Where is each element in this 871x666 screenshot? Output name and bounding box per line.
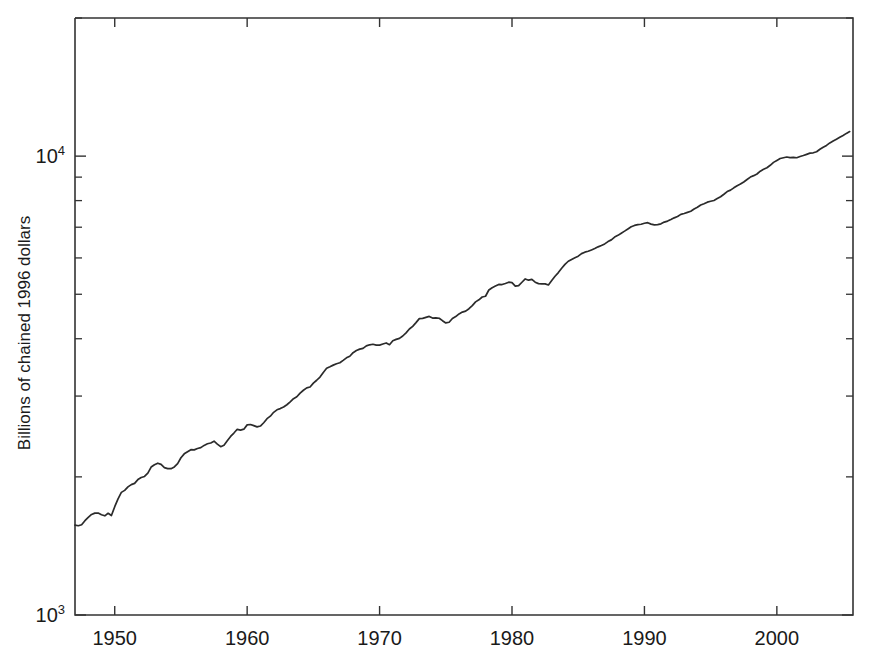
x-tick-label-2000: 2000 [755,627,800,649]
x-tick-label-1990: 1990 [622,627,667,649]
line-chart-svg: 195019601970198019902000 103104 Billions… [0,0,871,666]
x-tick-label-1950: 1950 [92,627,137,649]
chart-figure: 195019601970198019902000 103104 Billions… [0,0,871,666]
x-tick-label-1970: 1970 [357,627,402,649]
x-tick-label-1980: 1980 [490,627,535,649]
figure-background [0,0,871,666]
x-tick-label-1960: 1960 [225,627,270,649]
y-axis-label: Billions of chained 1996 dollars [15,216,34,450]
